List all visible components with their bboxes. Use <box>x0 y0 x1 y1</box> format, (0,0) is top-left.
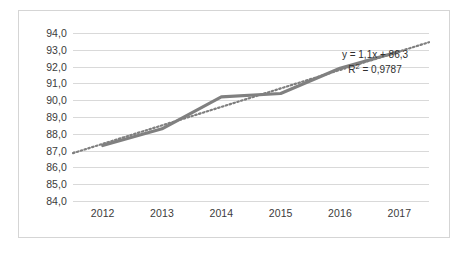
x-axis-tick-labels: 201220132014201520162017 <box>73 207 429 227</box>
y-axis-tick-label: 87,0 <box>46 145 67 157</box>
plot-area: y = 1,1x + 86,3 R2 = 0,9787 <box>73 33 429 201</box>
y-axis-tick-label: 89,0 <box>46 111 67 123</box>
y-axis-tick-label: 90,0 <box>46 94 67 106</box>
x-axis-tick-label: 2014 <box>209 207 233 219</box>
y-axis-tick-label: 85,0 <box>46 178 67 190</box>
y-axis-tick-label: 91,0 <box>46 77 67 89</box>
y-axis-tick-labels: 94,093,092,091,090,089,088,087,086,085,0… <box>27 33 67 201</box>
chart-plot-frame: 94,093,092,091,090,089,088,087,086,085,0… <box>18 10 450 238</box>
gridline <box>73 201 429 202</box>
y-axis-tick-label: 84,0 <box>46 195 67 207</box>
x-axis-tick-label: 2017 <box>387 207 411 219</box>
y-axis-tick-label: 86,0 <box>46 161 67 173</box>
x-axis-tick-label: 2013 <box>150 207 174 219</box>
chart-figure: 94,093,092,091,090,089,088,087,086,085,0… <box>0 0 469 255</box>
y-axis-tick-label: 93,0 <box>46 44 67 56</box>
y-axis-tick-label: 88,0 <box>46 128 67 140</box>
series-lines <box>73 33 429 201</box>
y-axis-tick-label: 94,0 <box>46 27 67 39</box>
y-axis-tick-label: 92,0 <box>46 61 67 73</box>
x-axis-tick-label: 2015 <box>269 207 293 219</box>
x-axis-tick-label: 2012 <box>91 207 115 219</box>
x-axis-tick-label: 2016 <box>328 207 352 219</box>
